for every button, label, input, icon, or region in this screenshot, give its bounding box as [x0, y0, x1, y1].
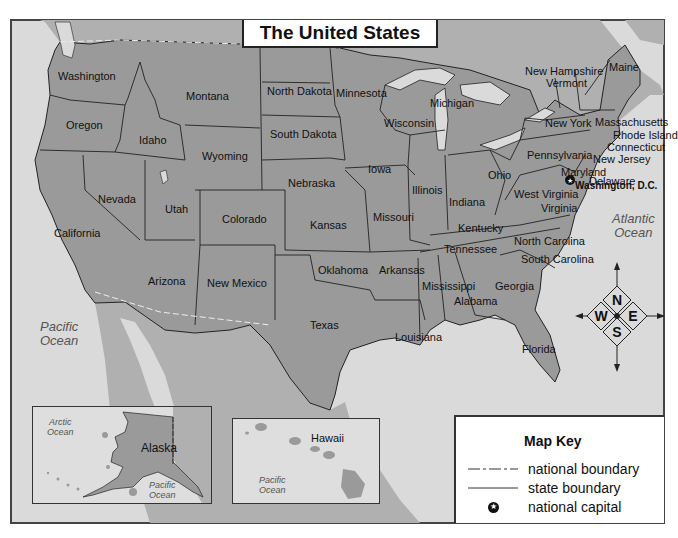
- map-key-title: Map Key: [524, 433, 582, 449]
- state-label-maine: Maine: [609, 62, 639, 73]
- state-label-massachusetts: Massachusetts: [595, 117, 668, 128]
- key-label: national boundary: [528, 461, 639, 477]
- state-label-oregon: Oregon: [66, 120, 103, 131]
- state-label-montana: Montana: [186, 91, 229, 102]
- pacific-ocean-label-alaska: Pacific Ocean: [149, 481, 176, 501]
- state-label-rhode-island: Rhode Island: [613, 130, 678, 141]
- state-label-nevada: Nevada: [98, 194, 136, 205]
- hawaii-label: Hawaii: [311, 433, 344, 444]
- state-label-nebraska: Nebraska: [288, 178, 335, 189]
- ocean-label-pacific: Pacific Ocean: [40, 320, 78, 349]
- compass-west: W: [591, 309, 611, 323]
- dash-line-icon: [466, 461, 520, 477]
- state-label-wisconsin: Wisconsin: [384, 118, 434, 129]
- state-label-illinois: Illinois: [412, 185, 443, 196]
- state-label-north-dakota: North Dakota: [267, 86, 332, 97]
- state-label-michigan: Michigan: [430, 98, 474, 109]
- star-icon: ★: [567, 177, 573, 184]
- compass-south: S: [607, 325, 627, 339]
- key-label: state boundary: [528, 480, 621, 496]
- us-map: The United States WashingtonOregonIdahoM…: [0, 0, 678, 538]
- state-label-california: California: [54, 228, 100, 239]
- state-label-tennessee: Tennessee: [444, 244, 497, 255]
- pacific-ocean-label-hawaii: Pacific Ocean: [259, 476, 286, 496]
- compass-north: N: [607, 293, 627, 307]
- state-label-new-mexico: New Mexico: [207, 278, 267, 289]
- alaska-inset: Alaska Arctic Ocean Pacific Ocean: [32, 406, 212, 504]
- key-row-national-capital: ★ national capital: [466, 499, 666, 515]
- compass-east: E: [623, 309, 643, 323]
- state-label-louisiana: Louisiana: [395, 332, 442, 343]
- arctic-ocean-label: Arctic Ocean: [47, 418, 74, 438]
- map-key: Map Key national boundary state boundary…: [454, 415, 664, 523]
- solid-line-icon: [466, 480, 520, 496]
- state-label-ohio: Ohio: [488, 170, 511, 181]
- state-label-mississippi: Mississippi: [422, 281, 475, 292]
- map-title: The United States: [242, 20, 438, 48]
- state-label-pennsylvania: Pennsylvania: [527, 150, 592, 161]
- state-label-florida: Florida: [522, 344, 556, 355]
- state-label-new-york: New York: [545, 118, 591, 129]
- key-label: national capital: [528, 499, 621, 515]
- compass-rose: N S W E: [575, 262, 665, 372]
- state-label-oklahoma: Oklahoma: [318, 265, 368, 276]
- key-row-national-boundary: national boundary: [466, 461, 666, 477]
- state-label-virginia: Virginia: [541, 203, 578, 214]
- state-label-colorado: Colorado: [222, 214, 267, 225]
- hawaii-graphic: [233, 419, 380, 504]
- state-label-missouri: Missouri: [373, 212, 414, 223]
- state-label-georgia: Georgia: [495, 281, 534, 292]
- state-label-connecticut: Connecticut: [607, 142, 665, 153]
- state-label-alabama: Alabama: [454, 296, 497, 307]
- state-label-minnesota: Minnesota: [336, 88, 387, 99]
- key-row-state-boundary: state boundary: [466, 480, 666, 496]
- state-label-utah: Utah: [165, 204, 188, 215]
- state-label-iowa: Iowa: [368, 164, 391, 175]
- alaska-label: Alaska: [141, 442, 177, 454]
- state-label-west-virginia: West Virginia: [514, 189, 578, 200]
- state-label-texas: Texas: [310, 320, 339, 331]
- state-label-new-hampshire: New Hampshire: [525, 66, 603, 77]
- state-label-new-jersey: New Jersey: [593, 154, 650, 165]
- capital-label: Washington, D.C.: [575, 181, 657, 191]
- capital-marker: ★: [565, 175, 575, 185]
- state-label-indiana: Indiana: [449, 197, 485, 208]
- state-label-kentucky: Kentucky: [458, 223, 503, 234]
- capital-star-icon: ★: [466, 499, 520, 515]
- state-label-vermont: Vermont: [546, 78, 587, 89]
- state-label-idaho: Idaho: [139, 135, 167, 146]
- hawaii-inset: Hawaii Pacific Ocean: [232, 418, 380, 504]
- compass-graphic: [575, 262, 665, 372]
- state-label-wyoming: Wyoming: [202, 151, 248, 162]
- state-label-arizona: Arizona: [148, 276, 185, 287]
- state-label-washington: Washington: [58, 71, 116, 82]
- state-label-south-dakota: South Dakota: [270, 129, 337, 140]
- ocean-label-atlantic: Atlantic Ocean: [612, 212, 655, 241]
- state-label-arkansas: Arkansas: [379, 265, 425, 276]
- state-label-kansas: Kansas: [310, 220, 347, 231]
- state-label-north-carolina: North Carolina: [514, 236, 585, 247]
